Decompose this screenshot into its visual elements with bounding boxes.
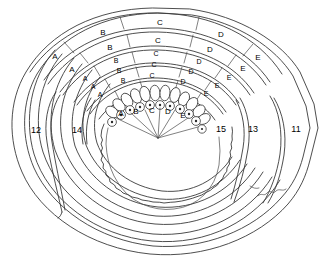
ring-6-label-E: E	[180, 111, 185, 120]
ring-1-label-D: D	[218, 30, 224, 39]
ring-5-label-D: D	[180, 78, 185, 85]
ring-6-label-B: B	[133, 107, 138, 116]
ring-2-label-A: A	[69, 65, 75, 74]
region-number-15: 15	[216, 124, 226, 134]
region-number-12: 12	[31, 125, 41, 135]
ring-2-label-B: B	[107, 43, 112, 52]
ring-3-label-E: E	[227, 74, 232, 81]
ring-2-label-D: D	[207, 45, 213, 54]
nucleated-cell	[108, 118, 117, 127]
ring-4-label-B: B	[117, 67, 122, 74]
nucleated-cell	[185, 110, 194, 119]
region-number-11: 11	[291, 124, 300, 134]
left-spiral-tails	[46, 92, 95, 218]
anatomical-ring-diagram: A B C D E A B C D E A B C D E A B C D E …	[0, 0, 327, 263]
ring-4-label-D: D	[188, 68, 193, 75]
ring-4-label-A: A	[91, 83, 96, 90]
region-numbers: 12 14 15 13 11	[31, 124, 301, 135]
ring-4-label-E: E	[215, 82, 220, 89]
ring-1-label-A: A	[52, 52, 58, 61]
ring-5-label-A: A	[98, 91, 103, 98]
region-number-13: 13	[248, 124, 258, 134]
region-number-14: 14	[72, 125, 82, 135]
ring-6-label-D: D	[165, 107, 171, 116]
ring-3-label-D: D	[196, 58, 201, 65]
nucleated-cell	[198, 125, 206, 133]
scalloped-inner-boundary	[101, 124, 233, 209]
ring-1-label-B: B	[100, 28, 105, 37]
ring-1-label-E: E	[255, 53, 260, 62]
ring-2-label-E: E	[240, 64, 245, 73]
ring-1-label-C: C	[157, 18, 163, 27]
ring-5-label-E: E	[204, 90, 209, 97]
ring-2-label-C: C	[155, 36, 161, 45]
ring-5-label-B: B	[121, 77, 126, 84]
ring-3-label-A: A	[83, 75, 88, 82]
ring-5-label-C: C	[149, 72, 154, 79]
ring-3-label-C: C	[153, 50, 158, 57]
ring-4-label-C: C	[151, 61, 156, 68]
right-spiral-tails	[231, 96, 286, 203]
ring-6-label-C: C	[149, 106, 155, 115]
ring-6-label-A: A	[118, 109, 124, 118]
ring-3-label-B: B	[114, 57, 119, 64]
nucleated-cell	[192, 117, 201, 126]
